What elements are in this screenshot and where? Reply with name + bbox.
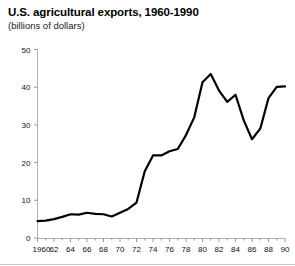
x-tick-label: 86 bbox=[248, 245, 257, 254]
chart-figure: U.S. agricultural exports, 1960-1990 (bi… bbox=[0, 0, 295, 266]
x-tick-label: 68 bbox=[99, 245, 108, 254]
x-tick-label: 78 bbox=[182, 245, 191, 254]
y-tick-label: 50 bbox=[22, 46, 31, 55]
y-tick-label: 10 bbox=[22, 196, 31, 205]
y-tick-label: 20 bbox=[22, 159, 31, 168]
x-tick-label: 80 bbox=[198, 245, 207, 254]
x-tick-label: 72 bbox=[132, 245, 141, 254]
y-axis-ticks bbox=[34, 50, 38, 239]
x-tick-label: 82 bbox=[215, 245, 224, 254]
x-tick-label: 88 bbox=[264, 245, 273, 254]
y-tick-label: 30 bbox=[22, 121, 31, 130]
x-tick-label: 90 bbox=[281, 245, 290, 254]
x-tick-label: 76 bbox=[165, 245, 174, 254]
x-tick-label: 84 bbox=[231, 245, 240, 254]
x-axis-tick-labels: 1960626466687072747678808284868890 bbox=[33, 245, 290, 254]
x-tick-label: 74 bbox=[149, 245, 158, 254]
y-axis-tick-labels: 01020304050 bbox=[22, 46, 31, 244]
y-tick-label: 0 bbox=[26, 234, 31, 243]
x-tick-label: 64 bbox=[66, 245, 75, 254]
line-chart-plot: 01020304050 1960626466687072747678808284… bbox=[0, 0, 295, 266]
x-tick-label: 1960 bbox=[33, 245, 51, 254]
x-tick-label: 70 bbox=[116, 245, 125, 254]
x-tick-label: 62 bbox=[50, 245, 59, 254]
x-tick-label: 66 bbox=[83, 245, 92, 254]
y-tick-label: 40 bbox=[22, 83, 31, 92]
bottom-divider bbox=[0, 264, 295, 265]
chart-axes bbox=[38, 49, 286, 239]
data-series-line bbox=[38, 74, 286, 221]
